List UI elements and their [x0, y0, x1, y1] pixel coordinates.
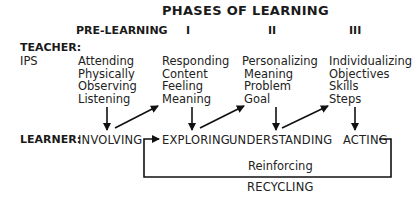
arrow-diag-involving-to-i [115, 106, 158, 128]
arrow-diag-understanding-to-iii [282, 106, 328, 128]
arrow-diag-exploring-to-ii [200, 106, 244, 128]
arrows-layer [0, 0, 420, 201]
recycling-loop [144, 139, 391, 177]
